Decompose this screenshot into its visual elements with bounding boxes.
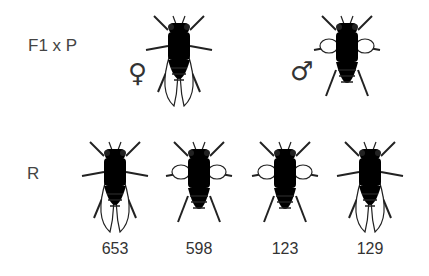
progeny-fly-3 xyxy=(250,138,320,236)
progeny-count-2: 598 xyxy=(169,240,229,258)
female-fly-long-wings-light-body xyxy=(144,12,214,110)
progeny-count-1: 653 xyxy=(85,240,145,258)
progeny-fly-1 xyxy=(80,138,150,236)
male-fly-vestigial-wings-dark-body xyxy=(312,12,382,110)
progeny-count-4: 129 xyxy=(340,240,400,258)
male-symbol-icon: ♂ xyxy=(290,56,313,86)
progeny-fly-2 xyxy=(164,138,234,236)
progeny-label: R xyxy=(27,164,39,184)
progeny-fly-4 xyxy=(335,138,405,236)
progeny-count-3: 123 xyxy=(255,240,315,258)
cross-label: F1 x P xyxy=(28,36,77,56)
